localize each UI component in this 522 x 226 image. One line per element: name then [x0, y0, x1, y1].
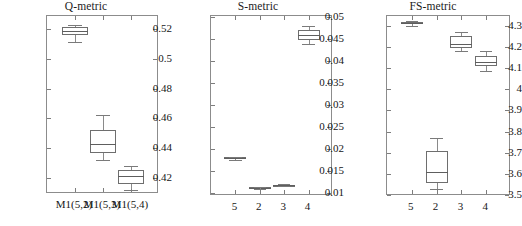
y-tick-mark	[211, 105, 215, 106]
y-tick-label: 0.42	[132, 172, 172, 183]
y-tick-label: 0.48	[132, 82, 172, 93]
x-tick-mark	[412, 16, 413, 20]
x-tick-label: M1(5,4)	[112, 199, 148, 210]
whisker-cap-upper	[430, 138, 442, 139]
whisker-cap-upper	[455, 32, 467, 33]
panel-q-metric: Q-metric0.420.440.460.480.50.52M1(5,2)M1…	[0, 0, 172, 226]
x-tick-mark	[260, 16, 261, 20]
y-tick-label: 0.01	[312, 187, 344, 198]
x-tick-mark	[75, 188, 76, 192]
y-tick-mark	[387, 26, 391, 27]
x-tick-mark	[437, 16, 438, 20]
whisker-upper	[437, 138, 438, 152]
y-tick-label: 0.5	[132, 52, 172, 63]
panel-s-metric: S-metric0.010.0150.020.0250.030.0350.040…	[172, 0, 344, 226]
y-tick-mark	[211, 83, 215, 84]
y-tick-label: 0.05	[312, 11, 344, 22]
x-tick-label: 4	[305, 201, 311, 212]
y-tick-label: 0.02	[312, 143, 344, 154]
whisker-cap-lower	[302, 44, 314, 45]
y-tick-label: 0.045	[312, 33, 344, 44]
x-tick-mark	[235, 190, 236, 194]
x-tick-mark	[235, 16, 236, 20]
y-tick-mark	[387, 195, 391, 196]
y-tick-mark	[211, 171, 215, 172]
boxplot-figure: Q-metric0.420.440.460.480.50.52M1(5,2)M1…	[0, 0, 522, 226]
y-tick-mark	[387, 89, 391, 90]
y-tick-label: 0.015	[312, 165, 344, 176]
whisker-lower	[75, 35, 76, 42]
y-tick-label: 3.7	[486, 146, 522, 157]
y-tick-label: 0.52	[132, 22, 172, 33]
y-tick-mark	[387, 47, 391, 48]
y-tick-label: 3.8	[486, 125, 522, 136]
y-tick-mark	[211, 149, 215, 150]
whisker-cap-upper	[96, 115, 111, 116]
y-tick-mark	[211, 39, 215, 40]
y-tick-label: 0.46	[132, 112, 172, 123]
y-tick-mark	[211, 193, 215, 194]
x-tick-label: 2	[256, 201, 262, 212]
x-tick-label: 5	[408, 201, 414, 212]
x-tick-mark	[103, 188, 104, 192]
x-tick-mark	[437, 190, 438, 194]
whisker-cap-lower	[278, 186, 290, 187]
plot-area	[46, 15, 158, 193]
whisker-cap-lower	[254, 189, 266, 190]
x-tick-mark	[103, 16, 104, 20]
panel-title: Q-metric	[0, 0, 172, 12]
whisker-cap-lower	[68, 42, 83, 43]
x-tick-mark	[75, 16, 76, 20]
box-iqr	[426, 151, 448, 183]
y-tick-mark	[387, 68, 391, 69]
x-tick-label: 3	[458, 201, 464, 212]
y-tick-label: 4.2	[486, 40, 522, 51]
y-tick-mark	[47, 118, 51, 119]
median-line	[450, 44, 472, 45]
y-tick-label: 3.6	[486, 168, 522, 179]
median-line	[90, 144, 116, 145]
x-tick-mark	[284, 190, 285, 194]
whisker-cap-upper	[124, 166, 139, 167]
whisker-cap-upper	[302, 26, 314, 27]
x-tick-mark	[260, 190, 261, 194]
whisker-lower	[103, 153, 104, 160]
x-tick-mark	[309, 190, 310, 194]
y-tick-mark	[47, 59, 51, 60]
y-tick-mark	[47, 148, 51, 149]
x-tick-label: 5	[232, 201, 238, 212]
median-line	[426, 172, 448, 173]
whisker-cap-lower	[406, 26, 418, 27]
y-tick-mark	[47, 89, 51, 90]
x-tick-mark	[284, 16, 285, 20]
y-tick-label: 4	[486, 83, 522, 94]
whisker-cap-lower	[430, 189, 442, 190]
y-tick-mark	[47, 29, 51, 30]
x-tick-label: 2	[433, 201, 439, 212]
y-tick-label: 0.44	[132, 142, 172, 153]
x-tick-mark	[461, 190, 462, 194]
x-tick-label: 3	[280, 201, 286, 212]
whisker-cap-lower	[96, 160, 111, 161]
y-tick-mark	[211, 127, 215, 128]
x-tick-label: 4	[482, 201, 488, 212]
y-tick-label: 4.3	[486, 19, 522, 30]
whisker-cap-lower	[455, 51, 467, 52]
y-tick-label: 4.1	[486, 62, 522, 73]
box-iqr	[450, 36, 472, 49]
x-tick-mark	[131, 16, 132, 20]
y-tick-mark	[387, 153, 391, 154]
y-tick-mark	[387, 132, 391, 133]
y-tick-label: 0.035	[312, 77, 344, 88]
whisker-upper	[103, 115, 104, 130]
median-line	[62, 31, 88, 32]
x-tick-mark	[461, 16, 462, 20]
whisker-cap-lower	[229, 160, 241, 161]
box-iqr	[90, 130, 116, 153]
y-tick-mark	[387, 174, 391, 175]
y-tick-mark	[387, 110, 391, 111]
y-tick-label: 0.03	[312, 99, 344, 110]
y-tick-mark	[211, 17, 215, 18]
whisker-cap-upper	[68, 25, 83, 26]
y-tick-mark	[211, 61, 215, 62]
